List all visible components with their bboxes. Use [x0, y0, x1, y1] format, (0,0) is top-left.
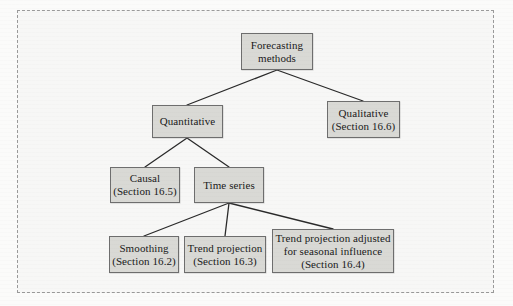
connector-methods-to-quantitative	[187, 70, 277, 105]
connector-time-series-to-smoothing	[144, 203, 229, 236]
node-trend-projection-seasonal-line-1: Trend projection adjusted	[275, 232, 390, 245]
node-trend-projection-line-2: (Section 16.3)	[193, 255, 257, 268]
node-trend-projection: Trend projection (Section 16.3)	[184, 236, 266, 273]
connector-quantitative-to-causal	[145, 138, 187, 167]
connector-time-series-to-trend-projection	[225, 203, 229, 236]
node-forecasting-methods-line-1: Forecasting	[251, 39, 303, 52]
node-qualitative-line-1: Qualitative	[339, 107, 389, 120]
connector-methods-to-qualitative	[277, 70, 363, 101]
forecasting-methods-figure: Forecasting methods Quantitative Qualita…	[0, 0, 513, 306]
node-causal-line-2: (Section 16.5)	[113, 185, 177, 198]
node-smoothing: Smoothing (Section 16.2)	[109, 236, 179, 273]
node-forecasting-methods: Forecasting methods	[241, 33, 313, 70]
node-causal-line-1: Causal	[130, 172, 161, 185]
node-qualitative: Qualitative (Section 16.6)	[327, 101, 400, 138]
node-trend-projection-seasonal-line-2: for seasonal influence	[284, 245, 383, 258]
node-forecasting-methods-line-2: methods	[258, 52, 296, 65]
node-qualitative-line-2: (Section 16.6)	[332, 120, 396, 133]
node-trend-projection-seasonal: Trend projection adjusted for seasonal i…	[272, 229, 394, 273]
node-trend-projection-line-1: Trend projection	[188, 242, 263, 255]
connector-quantitative-to-time-series	[187, 138, 229, 167]
node-time-series-line-1: Time series	[203, 179, 255, 192]
connector-time-series-to-trend-seasonal	[229, 203, 333, 229]
node-smoothing-line-1: Smoothing	[119, 242, 168, 255]
node-trend-projection-seasonal-line-3: (Section 16.4)	[301, 258, 365, 271]
node-causal: Causal (Section 16.5)	[110, 167, 180, 203]
node-smoothing-line-2: (Section 16.2)	[112, 255, 176, 268]
node-time-series: Time series	[194, 167, 264, 203]
node-quantitative: Quantitative	[152, 105, 223, 138]
node-quantitative-line-1: Quantitative	[160, 115, 216, 128]
